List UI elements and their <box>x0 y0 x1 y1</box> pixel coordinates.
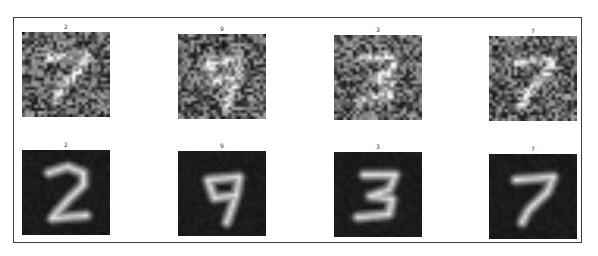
noisy-image-cell: 3 <box>334 35 422 120</box>
denoised-digit-image <box>489 154 577 239</box>
noisy-digit-image <box>178 34 266 119</box>
noisy-image-cell: 7 <box>489 36 577 121</box>
noisy-image-cell: 9 <box>178 34 266 119</box>
image-label: 7 <box>489 27 577 35</box>
image-label: 3 <box>334 143 422 151</box>
image-label: 9 <box>178 25 266 33</box>
noisy-digit-image <box>334 35 422 120</box>
image-label: 3 <box>334 26 422 34</box>
denoised-digit-image <box>178 151 266 236</box>
noisy-image-cell: 2 <box>22 32 110 117</box>
image-label: 9 <box>178 142 266 150</box>
denoised-image-cell: 7 <box>489 154 577 239</box>
denoised-digit-image <box>22 150 110 235</box>
denoised-image-cell: 3 <box>334 152 422 237</box>
image-label: 2 <box>22 23 110 31</box>
denoised-image-cell: 9 <box>178 151 266 236</box>
noisy-digit-image <box>22 32 110 117</box>
denoised-image-cell: 2 <box>22 150 110 235</box>
image-label: 2 <box>22 141 110 149</box>
image-label: 7 <box>489 145 577 153</box>
denoised-digit-image <box>334 152 422 237</box>
noisy-digit-image <box>489 36 577 121</box>
